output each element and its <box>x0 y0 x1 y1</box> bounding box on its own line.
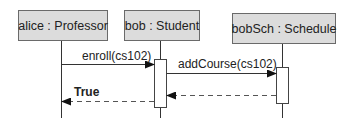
message-addcourse-label: addCourse(cs102) <box>178 57 277 71</box>
activation-bobsch <box>277 68 289 104</box>
activation-bob <box>155 60 167 108</box>
return-true-label: True <box>74 85 99 99</box>
message-enroll-label: enroll(cs102) <box>82 49 151 63</box>
